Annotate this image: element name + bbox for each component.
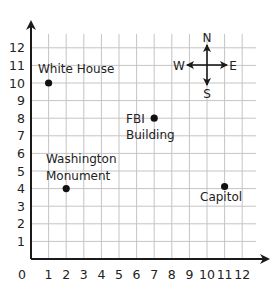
x-tick: 11 [217, 267, 233, 282]
y-tick: 3 [17, 199, 25, 214]
y-tick: 12 [9, 40, 25, 55]
compass-rose: N S E W [173, 31, 237, 101]
point-marker [63, 185, 70, 192]
y-tick: 4 [17, 181, 25, 196]
white-house-label: White House [38, 62, 114, 76]
x-tick: 3 [80, 267, 88, 282]
x-tick: 5 [115, 267, 123, 282]
fbi-label-line2: Building [126, 128, 175, 142]
y-tick: 1 [17, 234, 25, 249]
x-tick: 12 [234, 267, 250, 282]
y-tick: 2 [17, 216, 25, 231]
x-tick: 6 [133, 267, 141, 282]
location-washington-monument: Washington Monument [46, 152, 117, 192]
y-tick: 8 [17, 111, 25, 126]
y-tick-labels: 1 2 3 4 5 6 7 8 9 10 11 12 [9, 40, 25, 249]
x-tick-labels: 0 1 2 3 4 5 6 7 8 9 10 11 12 [18, 267, 250, 282]
y-tick: 7 [17, 128, 25, 143]
compass-west-label: W [173, 59, 185, 73]
washington-label-line2: Monument [46, 169, 111, 183]
y-tick: 6 [17, 146, 25, 161]
coordinate-map: 1 2 3 4 5 6 7 8 9 10 11 12 0 1 2 3 4 5 6… [0, 0, 276, 291]
map-svg: 1 2 3 4 5 6 7 8 9 10 11 12 0 1 2 3 4 5 6… [0, 0, 276, 291]
compass-south-label: S [203, 87, 211, 101]
point-marker [151, 115, 158, 122]
x-tick: 4 [97, 267, 105, 282]
location-capitol: Capitol [200, 183, 242, 204]
compass-east-label: E [229, 59, 237, 73]
y-tick: 5 [17, 164, 25, 179]
point-marker [45, 79, 52, 86]
x-tick: 1 [45, 267, 53, 282]
location-fbi-building: FBI Building [126, 112, 175, 142]
washington-label-line1: Washington [46, 152, 117, 166]
x-tick: 10 [199, 267, 215, 282]
origin-label: 0 [18, 267, 26, 282]
capitol-label: Capitol [200, 190, 242, 204]
fbi-label-line1: FBI [126, 112, 145, 126]
compass-north-label: N [203, 31, 212, 45]
y-tick: 11 [9, 58, 25, 73]
y-tick: 10 [9, 76, 25, 91]
y-tick: 9 [17, 93, 25, 108]
x-tick: 2 [62, 267, 70, 282]
x-tick: 8 [168, 267, 176, 282]
x-tick: 9 [185, 267, 193, 282]
x-tick: 7 [150, 267, 158, 282]
